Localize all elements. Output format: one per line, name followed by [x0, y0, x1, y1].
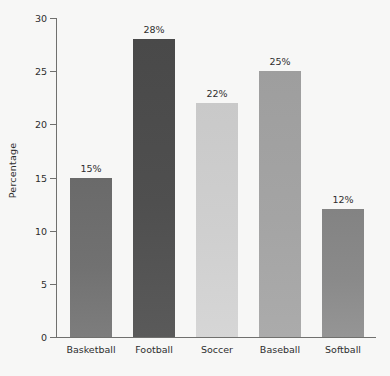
y-axis-title: Percentage [0, 0, 26, 340]
y-tick-mark [50, 284, 57, 285]
y-axis-title-text: Percentage [8, 142, 19, 197]
y-tick-mark [50, 178, 57, 179]
y-tick-mark [50, 71, 57, 72]
x-category-label-basketball: Basketball [66, 344, 115, 355]
x-axis-line [56, 337, 376, 338]
y-tick-label: 30 [35, 13, 47, 24]
y-tick-mark [50, 337, 57, 338]
y-tick-label: 15 [35, 172, 47, 183]
bar-value-label: 15% [80, 163, 101, 174]
bar-football[interactable]: 28% [133, 39, 175, 337]
bar-chart: Percentage 0 5 10 15 20 25 [0, 0, 390, 376]
bar-value-label: 28% [143, 24, 164, 35]
x-category-label-soccer: Soccer [201, 344, 233, 355]
bar-baseball[interactable]: 25% [259, 71, 301, 337]
bar-basketball[interactable]: 15% [70, 178, 112, 338]
y-tick-label: 25 [35, 66, 47, 77]
bar-softball[interactable]: 12% [322, 209, 364, 337]
y-tick-mark [50, 124, 57, 125]
x-category-label-baseball: Baseball [260, 344, 300, 355]
y-tick-label: 20 [35, 119, 47, 130]
x-category-label-football: Football [135, 344, 173, 355]
bar-soccer[interactable]: 22% [196, 103, 238, 337]
y-tick-mark [50, 18, 57, 19]
y-tick-label: 0 [41, 332, 47, 343]
y-tick-label: 10 [35, 225, 47, 236]
bar-value-label: 25% [269, 56, 290, 67]
x-category-label-softball: Softball [325, 344, 361, 355]
plot-area: 0 5 10 15 20 25 30 15% 2 [56, 18, 376, 337]
y-tick-label: 5 [41, 278, 47, 289]
y-tick-mark [50, 231, 57, 232]
bar-value-label: 12% [332, 194, 353, 205]
bar-value-label: 22% [206, 88, 227, 99]
